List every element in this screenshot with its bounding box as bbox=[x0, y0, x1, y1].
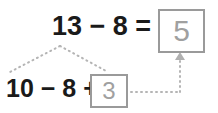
branch-left-dotted-line bbox=[10, 46, 60, 72]
remainder-answer-value: 3 bbox=[102, 79, 115, 103]
bottom-expression: 10 − 8 + bbox=[6, 76, 98, 101]
total-answer-value: 5 bbox=[173, 16, 190, 46]
result-arrowhead-icon bbox=[175, 52, 185, 60]
math-diagram-canvas: 13 − 8 = 5 10 − 8 + 3 bbox=[0, 0, 218, 113]
total-answer-box[interactable]: 5 bbox=[158, 9, 205, 53]
remainder-answer-box[interactable]: 3 bbox=[90, 74, 128, 108]
top-expression: 13 − 8 = bbox=[52, 13, 151, 40]
branch-right-dotted-line bbox=[60, 46, 108, 72]
